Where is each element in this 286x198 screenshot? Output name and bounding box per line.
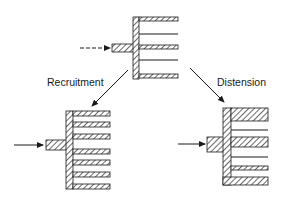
inlet-pipe-top xyxy=(112,44,134,52)
diagram-canvas: Recruitment Distension xyxy=(0,0,286,198)
channel-wall xyxy=(73,184,110,189)
channel-wall xyxy=(231,108,268,121)
recruitment-network xyxy=(14,111,110,189)
channel-wall xyxy=(73,122,110,127)
channel-wall xyxy=(231,137,268,147)
channel-wall xyxy=(73,134,110,139)
manifold-wall-top xyxy=(133,17,139,79)
baseline-network xyxy=(80,17,178,79)
closed-channel xyxy=(139,45,178,49)
closed-channel xyxy=(139,17,178,21)
inlet-pipe-right xyxy=(207,137,224,152)
manifold-wall-right xyxy=(223,108,231,185)
distension-label: Distension xyxy=(217,76,266,88)
channel-wall xyxy=(73,160,110,165)
channel-wall xyxy=(73,172,110,177)
channel-wall xyxy=(73,111,110,116)
inlet-pipe-left xyxy=(46,140,67,150)
distension-network xyxy=(178,108,268,185)
recruitment-label: Recruitment xyxy=(47,76,104,88)
closed-channel xyxy=(139,74,178,78)
channel-wall xyxy=(223,177,268,185)
channel-wall xyxy=(231,166,268,170)
manifold-wall-left xyxy=(66,111,73,189)
channel-wall xyxy=(73,149,110,154)
